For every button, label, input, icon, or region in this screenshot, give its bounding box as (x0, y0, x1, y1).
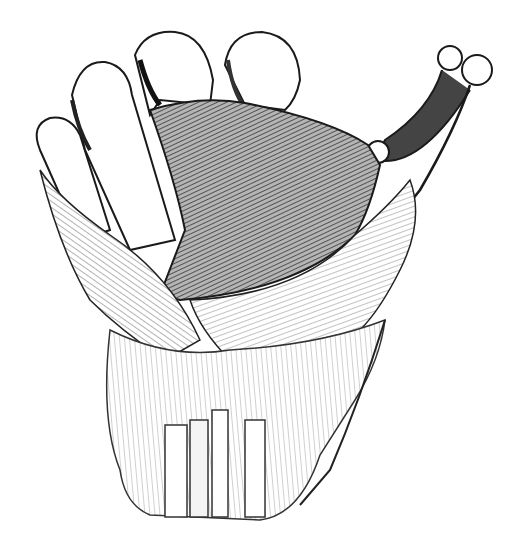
anatomical-engraving (0, 0, 518, 545)
thumb-bone (367, 46, 492, 215)
finger-bone-second (225, 32, 300, 110)
illustration-canvas (0, 0, 518, 545)
forearm-tendons (165, 410, 265, 517)
